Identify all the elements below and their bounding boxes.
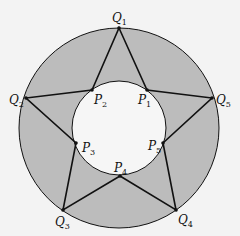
annulus-star-diagram: Q1Q2Q3Q4Q5P1P2P3P4P5 (0, 0, 240, 236)
vertex-dot-p2 (90, 88, 94, 92)
vertex-dot-q2 (24, 96, 28, 100)
vertex-label-q3: Q3 (55, 215, 70, 231)
vertex-dot-p1 (145, 88, 149, 92)
vertex-label-q5: Q5 (216, 93, 231, 109)
vertex-dot-p5 (161, 141, 165, 145)
vertex-dot-p3 (74, 141, 78, 145)
vertex-label-q4: Q4 (178, 213, 193, 229)
vertex-dot-q5 (210, 96, 214, 100)
vertex-label-q2: Q2 (9, 93, 24, 109)
vertex-dot-q1 (117, 26, 121, 30)
vertex-dot-q4 (174, 208, 178, 212)
vertex-label-q1: Q1 (112, 11, 127, 27)
vertex-dot-q3 (61, 208, 65, 212)
